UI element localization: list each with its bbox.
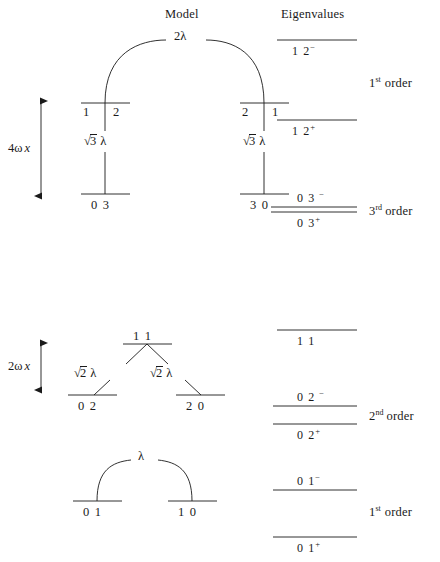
scale-label-4wx: 4ωx xyxy=(8,142,30,155)
coupling-arc-2lambda xyxy=(105,40,264,103)
figure-caption xyxy=(4,553,440,562)
coupling-label-sqrt3-right: √3λ xyxy=(243,134,265,148)
sqrt2-right-lambda: λ xyxy=(166,366,172,380)
state-label-01: 0 1 xyxy=(83,506,102,519)
order-label-3rd: 3rdorder xyxy=(369,204,413,218)
state-label-10: 1 0 xyxy=(178,506,197,519)
order-label-1st-bottom: 1storder xyxy=(369,505,412,519)
eig-label-03-plus: 0 3+ xyxy=(297,215,320,229)
eig-label-03-minus: 0 3− xyxy=(297,190,324,204)
sqrt3-left-radicand: 3 xyxy=(90,134,97,148)
eig-label-11: 1 1 xyxy=(297,333,315,347)
state-label-20: 2 0 xyxy=(186,400,205,413)
eig-label-02-plus: 0 2+ xyxy=(297,427,320,441)
header-model: Model xyxy=(165,8,199,21)
coupling-label-lambda: λ xyxy=(138,450,144,463)
coupling-label-2lambda: 2λ xyxy=(174,30,186,43)
energy-level-diagram: Model Eigenvalues 4ωx 2ωx 2λ 1 2 2 1 √3λ… xyxy=(0,0,440,562)
coupling-diagonal-left xyxy=(94,344,147,395)
state-label-30: 3 0 xyxy=(250,199,269,212)
eig-label-02-minus: 0 2− xyxy=(297,389,324,403)
state-label-03: 0 3 xyxy=(91,199,110,212)
sqrt2-left-radicand: 2 xyxy=(80,366,87,380)
coupling-arc-lambda xyxy=(97,460,192,501)
scale-4wx-var: x xyxy=(24,141,30,155)
order-label-2nd: 2ndorder xyxy=(369,409,414,423)
state-label-21-left: 2 xyxy=(242,106,249,119)
eig-label-12-minus: 1 2− xyxy=(292,43,315,57)
eig-label-01-plus: 0 1+ xyxy=(297,540,320,554)
coupling-label-sqrt3-left: √3λ xyxy=(84,134,106,148)
state-label-11: 1 1 xyxy=(133,330,152,343)
scale-2wx-var: x xyxy=(24,359,30,373)
header-eigenvalues: Eigenvalues xyxy=(281,8,344,21)
sqrt3-right-radicand: 3 xyxy=(249,134,256,148)
state-label-12-right: 2 xyxy=(113,106,120,119)
order-label-1st-top: 1storder xyxy=(369,76,412,90)
scale-label-2wx: 2ωx xyxy=(8,360,30,373)
eig-label-12-plus: 1 2+ xyxy=(292,123,315,137)
sqrt2-right-radicand: 2 xyxy=(156,366,163,380)
state-label-02: 0 2 xyxy=(78,400,97,413)
scale-4wx-omega: ω xyxy=(14,141,22,155)
sqrt2-left-lambda: λ xyxy=(90,366,96,380)
eig-label-01-minus: 0 1− xyxy=(297,473,320,487)
scale-2wx-omega: ω xyxy=(14,359,22,373)
coupling-label-sqrt2-left: √2λ xyxy=(74,366,96,380)
sqrt3-right-lambda: λ xyxy=(259,134,265,148)
sqrt3-left-lambda: λ xyxy=(100,134,106,148)
state-label-12-left: 1 xyxy=(83,106,90,119)
state-label-21-right: 1 xyxy=(272,106,279,119)
coupling-label-sqrt2-right: √2λ xyxy=(150,366,172,380)
